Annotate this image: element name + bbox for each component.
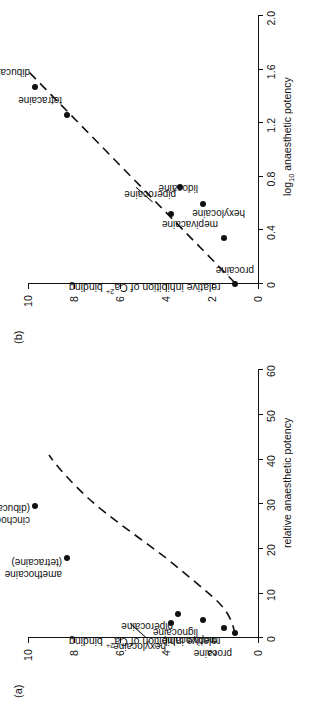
data-label-amethocaine-a: amethocaine <box>0 569 62 580</box>
data-point-piperocaine-a <box>175 611 181 617</box>
data-label-cinchocaine-a: cinchocaine <box>0 515 30 526</box>
data-label-amethocaine-a-line1: amethocaine <box>5 569 62 580</box>
data-label-hexylocaine-b: hexylocaine <box>175 208 245 219</box>
data-label-cinchocaine-a-line1: cinchocaine <box>0 515 30 526</box>
data-point-mepivacaine-a <box>221 625 227 631</box>
data-point-hexylocaine-b <box>168 211 174 217</box>
data-label-mepivacaine-b: mepivacaine <box>148 219 218 230</box>
data-label-procaine-a: procaine <box>172 648 232 659</box>
data-point-procaine-b <box>232 281 238 287</box>
data-point-mepivacaine-b <box>221 235 227 241</box>
data-label-procaine-b: procaine <box>194 265 254 276</box>
panel-a: (a) 0 10 20 30 40 50 60 0 2 4 6 8 10 rel… <box>0 354 313 708</box>
data-point-amethocaine-a <box>64 555 70 561</box>
panel-a-trend-curve <box>0 354 313 708</box>
figure-canvas: (a) 0 10 20 30 40 50 60 0 2 4 6 8 10 rel… <box>0 0 313 708</box>
data-point-lignocaine-a <box>200 617 206 623</box>
data-point-dibucaine-b <box>32 84 38 90</box>
panel-b-trend-line <box>0 0 313 354</box>
data-label-dibucaine-a-line2: (dibucaine) <box>0 503 30 514</box>
data-label-tetracaine-a-line2: (tetracaine) <box>11 557 62 568</box>
data-label-dibucaine-a: (dibucaine) <box>0 503 30 514</box>
data-label-hexylocaine-a: hexylocaine <box>96 641 166 652</box>
data-label-tetracaine-a: (tetracaine) <box>0 557 62 568</box>
data-point-lidocaine-b <box>200 201 206 207</box>
data-label-tetracaine-b: tetracaine <box>0 95 62 106</box>
panel-b: (b) 0 0.4 0.8 1.2 1.6 2.0 0 2 4 6 8 10 l… <box>0 0 313 354</box>
data-label-piperocaine-b: piperocaine <box>100 189 176 200</box>
data-label-dibucaine-b: dibucaine <box>0 67 30 78</box>
